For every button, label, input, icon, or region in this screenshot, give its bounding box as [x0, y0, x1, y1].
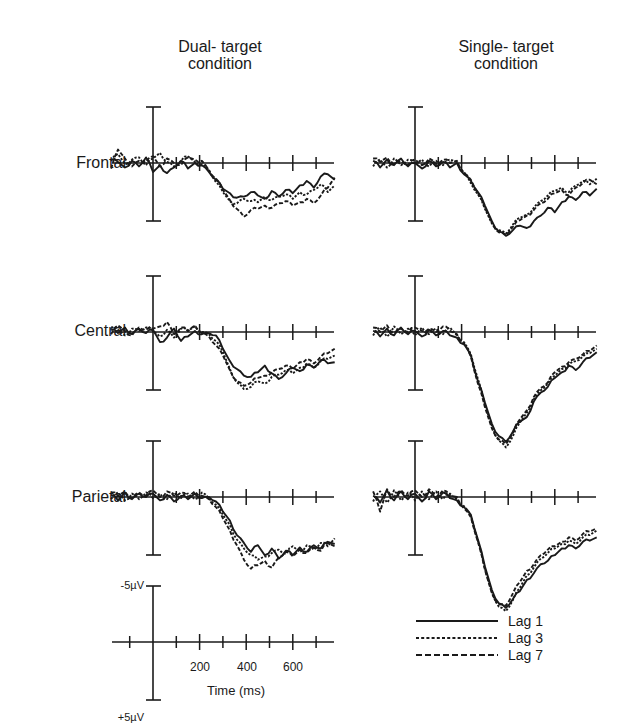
scale-top-label: -5µV [84, 579, 144, 591]
x-axis-label: Time (ms) [207, 683, 265, 698]
parietal-single-target-lag1-waveform [373, 490, 597, 608]
legend-label-lag1: Lag 1 [508, 613, 543, 629]
central-single-target-lag1-waveform [373, 328, 597, 442]
central-single-target-lag3-waveform [373, 326, 597, 447]
x-tick-600: 600 [273, 660, 313, 674]
legend-label-lag3: Lag 3 [508, 630, 543, 646]
x-tick-200: 200 [180, 660, 220, 674]
legend-label-lag7: Lag 7 [508, 647, 543, 663]
parietal-single-target-lag7-waveform [373, 489, 597, 605]
frontal-single-target-lag3-waveform [373, 159, 597, 234]
frontal-single-target-lag1-waveform [373, 159, 597, 236]
parietal-single-target-lag3-waveform [373, 490, 597, 611]
x-tick-400: 400 [227, 660, 267, 674]
central-single-target-lag7-waveform [373, 325, 597, 444]
scale-bottom-label: +5µV [84, 711, 144, 723]
